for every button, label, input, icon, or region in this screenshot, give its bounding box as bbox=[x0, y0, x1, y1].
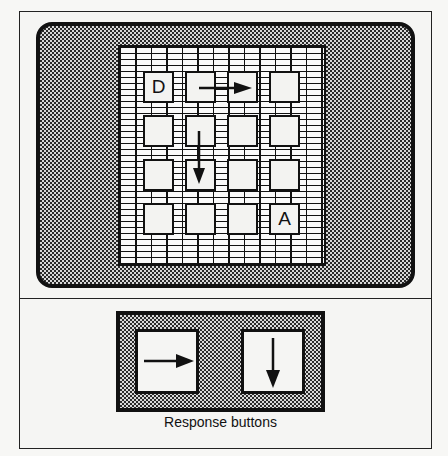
grid-cell-r3c0 bbox=[143, 203, 174, 235]
grid-cell-r0c2 bbox=[227, 71, 258, 103]
grid-cell-r1c2 bbox=[227, 115, 258, 147]
cell-label-goal: A bbox=[278, 208, 291, 230]
response-buttons-caption: Response buttons bbox=[116, 414, 325, 430]
grid-cell-r0c0: D bbox=[143, 71, 174, 103]
response-button-down[interactable] bbox=[241, 329, 305, 394]
grid-cell-r3c2 bbox=[227, 203, 258, 235]
cell-label-start: D bbox=[152, 76, 166, 98]
grid-cell-r1c0 bbox=[143, 115, 174, 147]
arrow-right-icon bbox=[138, 332, 196, 391]
grid-cell-r2c1 bbox=[185, 159, 216, 191]
grid-cell-r2c3 bbox=[269, 159, 300, 191]
section-divider bbox=[19, 298, 432, 299]
grid-cell-r1c3 bbox=[269, 115, 300, 147]
grid-cell-r3c1 bbox=[185, 203, 216, 235]
response-button-right[interactable] bbox=[135, 329, 199, 394]
grid-cell-r1c1 bbox=[185, 115, 216, 147]
grid-cell-r0c1 bbox=[185, 71, 216, 103]
grid-cell-r3c3: A bbox=[269, 203, 300, 235]
grid-cell-r2c0 bbox=[143, 159, 174, 191]
arrow-down-icon bbox=[244, 332, 302, 391]
grid-cell-r2c2 bbox=[227, 159, 258, 191]
grid-cell-r0c3 bbox=[269, 71, 300, 103]
